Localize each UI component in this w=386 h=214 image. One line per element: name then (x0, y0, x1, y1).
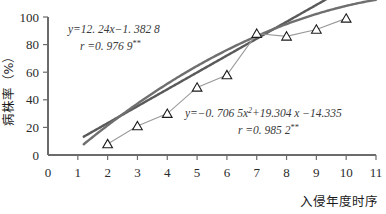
scatter-chart: 01234567891011 020406080100 入侵年度时序 病株率（%… (0, 0, 386, 214)
x-tick-label: 0 (45, 165, 52, 180)
x-tick-label: 1 (75, 165, 82, 180)
x-tick-label: 11 (370, 165, 383, 180)
y-tick-label: 100 (20, 10, 40, 25)
x-tick-label: 10 (340, 165, 353, 180)
y-tick-label: 0 (33, 148, 40, 163)
x-tick-label: 2 (104, 165, 111, 180)
x-tick-label: 5 (194, 165, 201, 180)
quadratic-r-line: r =0. 985 2** (238, 122, 299, 136)
y-axis-title: 病株率（%） (1, 50, 16, 127)
y-tick-label: 60 (26, 65, 39, 80)
x-tick-label: 9 (313, 165, 320, 180)
x-tick-label: 8 (283, 165, 290, 180)
y-tick-label: 80 (26, 37, 39, 52)
x-tick-label: 4 (164, 165, 171, 180)
y-tick-label: 40 (26, 92, 39, 107)
linear-equation-line: y=12. 24x−1. 382 8 (67, 23, 160, 36)
linear-r-line: r =0. 976 9** (80, 38, 141, 52)
quadratic-equation-line: y=−0. 706 5x2+19.304 x −14.335 (184, 106, 342, 120)
x-tick-label: 3 (134, 165, 141, 180)
y-tick-label: 20 (26, 120, 39, 135)
x-tick-label: 7 (253, 165, 260, 180)
x-axis-title: 入侵年度时序 (300, 194, 378, 209)
x-tick-label: 6 (224, 165, 231, 180)
chart-figure: 01234567891011 020406080100 入侵年度时序 病株率（%… (0, 0, 386, 214)
